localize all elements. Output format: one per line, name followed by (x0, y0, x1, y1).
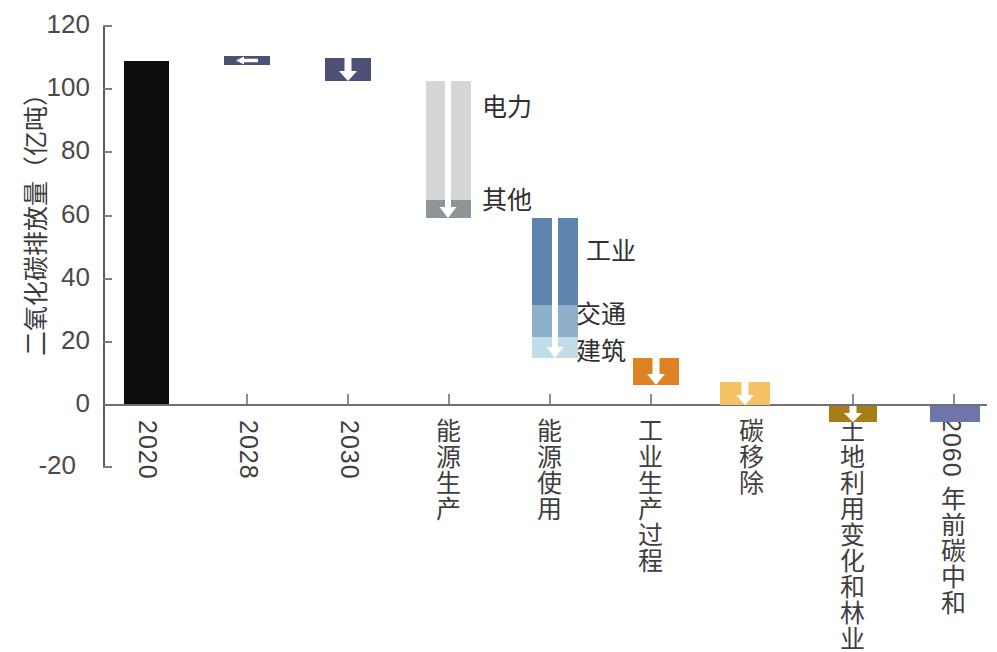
segment-power (426, 81, 471, 200)
x-tick-2030 (347, 394, 349, 404)
x-label-2030: 2030 (337, 420, 363, 480)
y-tick-label-40: 40 (22, 264, 90, 290)
x-label-energy-production: 能源生产 (433, 418, 459, 522)
x-label-industrial-process: 工业生产过程 (635, 418, 661, 574)
x-tick-2028 (246, 394, 248, 404)
y-tick-label-120: 120 (22, 11, 90, 37)
segment-transport (532, 305, 578, 337)
x-label-lulucf: 土地利用变化和林业 (837, 418, 863, 652)
legend-label-building: 建筑 (576, 339, 626, 364)
segment-industry (532, 218, 578, 305)
bar-lulucf (829, 406, 877, 422)
y-tick-label-100: 100 (22, 74, 90, 100)
x-label-2028: 2028 (236, 420, 262, 480)
bar-industrial-process (633, 358, 679, 385)
legend-label-power: 电力 (482, 95, 532, 120)
x-tick-industrial-process (650, 394, 652, 404)
bar-energy-production (426, 81, 471, 218)
y-tick-label-neg20: -20 (8, 452, 76, 478)
segment-other (426, 200, 471, 218)
x-tick-energy-use (549, 394, 551, 404)
y-tick-neg20 (103, 466, 112, 468)
x-label-2020: 2020 (135, 420, 161, 480)
x-tick-lulucf (852, 394, 854, 404)
x-tick-2060 (953, 394, 955, 404)
y-tick-120 (103, 25, 112, 27)
bar-carbon-removal (720, 382, 770, 405)
bar-2060-net-zero (930, 406, 980, 422)
bar-2028 (224, 56, 270, 65)
legend-label-other: 其他 (482, 188, 532, 213)
legend-label-industry: 工业 (586, 239, 636, 264)
bar-2020 (124, 61, 169, 404)
y-tick-100 (103, 88, 112, 90)
x-label-energy-use: 能源使用 (534, 418, 560, 522)
y-tick-40 (103, 278, 112, 280)
x-label-carbon-removal: 碳移除 (736, 418, 762, 496)
legend-label-transport: 交通 (576, 302, 626, 327)
y-tick-20 (103, 341, 112, 343)
y-tick-label-20: 20 (22, 327, 90, 353)
x-tick-energy-production (448, 394, 450, 404)
y-axis-line (103, 25, 105, 468)
y-tick-label-60: 60 (22, 201, 90, 227)
y-tick-60 (103, 215, 112, 217)
bar-energy-use (532, 218, 578, 358)
segment-building (532, 337, 578, 358)
y-tick-label-80: 80 (22, 137, 90, 163)
bar-2030 (325, 58, 371, 81)
y-tick-80 (103, 151, 112, 153)
x-label-2060: 2060 年前碳中和 (938, 418, 964, 616)
y-tick-label-0: 0 (22, 390, 90, 416)
